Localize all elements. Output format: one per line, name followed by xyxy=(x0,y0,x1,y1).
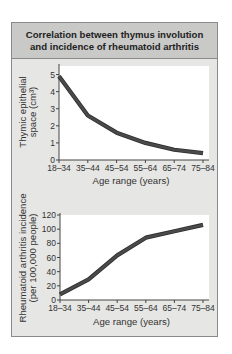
arthritis-x-tick-label: 18–34 xyxy=(48,303,72,313)
arthritis-x-axis-title: Age range (years) xyxy=(93,316,170,327)
arthritis-y-tick-label: 60 xyxy=(47,253,57,263)
arthritis-x-tick-label: 65–74 xyxy=(163,303,187,313)
arthritis-x-tick-label: 35–44 xyxy=(77,303,101,313)
arthritis-y-tick-label: 100 xyxy=(42,224,56,234)
arthritis-x-tick-label: 45–54 xyxy=(105,303,129,313)
arthritis-y-tick-label: 80 xyxy=(47,238,57,248)
arthritis-y-tick-label: 120 xyxy=(42,210,56,220)
arthritis-x-tick-label: 75–84 xyxy=(191,303,215,313)
arthritis-y-tick-label: 40 xyxy=(47,267,57,277)
arthritis-y-axis-title-line-2: (per 100,000 people) xyxy=(27,213,38,302)
arthritis-chart: 02040608010012018–3435–4445–5455–6465–74… xyxy=(0,0,232,354)
arthritis-y-tick-label: 20 xyxy=(47,281,57,291)
arthritis-x-tick-label: 55–64 xyxy=(134,303,158,313)
